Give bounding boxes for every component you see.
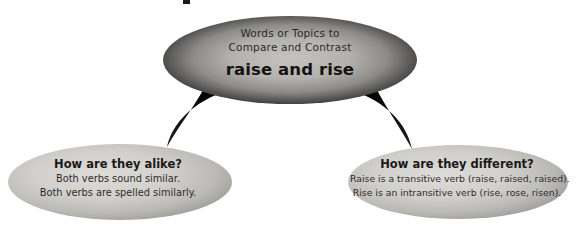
node-different-line-1: Raise is a transitive verb (raise, raise… bbox=[350, 172, 564, 186]
node-topic-label-line-2: Compare and Contrast bbox=[170, 40, 410, 54]
compare-contrast-diagram: Words or Topics to Compare and Contrast … bbox=[0, 0, 579, 231]
node-topic[interactable]: Words or Topics to Compare and Contrast … bbox=[170, 26, 410, 80]
connector-topic-to-alike bbox=[167, 88, 223, 147]
cropped-edge-artifact bbox=[183, 0, 190, 4]
node-alike[interactable]: How are they alike? Both verbs sound sim… bbox=[28, 157, 208, 200]
node-alike-line-2: Both verbs are spelled similarly. bbox=[28, 186, 208, 200]
node-topic-label-line-1: Words or Topics to bbox=[170, 26, 410, 40]
node-alike-line-1: Both verbs sound similar. bbox=[28, 172, 208, 186]
connector-topic-to-different bbox=[357, 88, 412, 149]
node-alike-title: How are they alike? bbox=[28, 157, 208, 172]
node-different-line-2: Rise is an intransitive verb (rise, rose… bbox=[350, 186, 564, 200]
node-different[interactable]: How are they different? Raise is a trans… bbox=[350, 157, 564, 200]
node-topic-headline: raise and rise bbox=[170, 60, 410, 80]
node-different-title: How are they different? bbox=[350, 157, 564, 172]
